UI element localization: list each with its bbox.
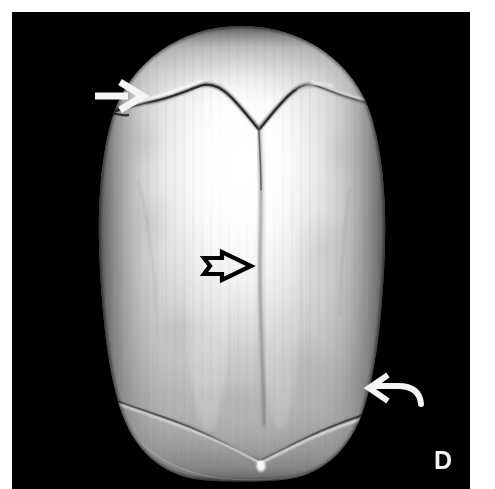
lambda-ossicle <box>257 461 266 472</box>
panel-label: D <box>434 448 452 473</box>
figure-panel: D <box>0 0 495 489</box>
scan-canvas[interactable]: D <box>12 12 470 489</box>
skull-reconstruction-image <box>12 12 470 489</box>
